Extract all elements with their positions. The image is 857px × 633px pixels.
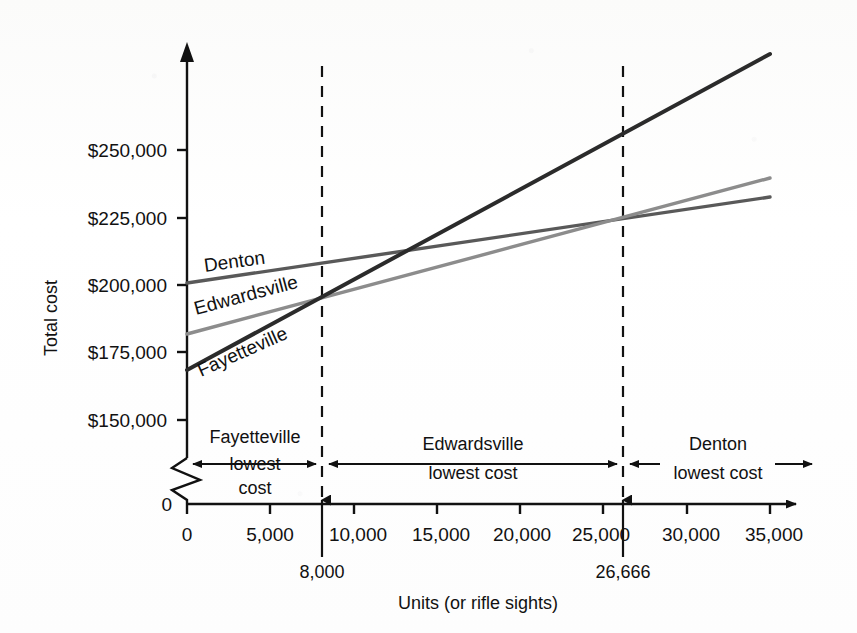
callout-label-8000: 8,000: [299, 562, 344, 582]
series-label-fayetteville: Fayetteville: [194, 322, 290, 380]
y-tick-label-200000: $200,000: [88, 275, 167, 296]
series-line-fayetteville: [187, 54, 770, 370]
series-line-edwardsville: [187, 178, 770, 334]
y-tick-label-175000: $175,000: [88, 342, 167, 363]
region-label-denton-line1: Denton: [689, 434, 747, 454]
region-label-fayetteville-line3: cost: [238, 478, 271, 498]
y-axis-ticks: [177, 150, 187, 420]
x-axis-title: Units (or rifle sights): [398, 593, 558, 613]
x-tick-label-5000: 5,000: [246, 524, 294, 545]
x-axis-ticks: [187, 504, 770, 514]
x-tick-label-0: 0: [182, 524, 193, 545]
region-label-edwardsville-line2: lowest cost: [428, 463, 517, 483]
y-axis-title: Total cost: [41, 280, 61, 356]
cost-volume-chart: Denton Edwardsville Fayetteville $150,00…: [0, 0, 857, 633]
region-label-fayetteville-line2: lowest: [229, 454, 280, 474]
region-label-denton-line2: lowest cost: [673, 463, 762, 483]
x-tick-label-35000: 35,000: [745, 524, 803, 545]
chart-canvas: Denton Edwardsville Fayetteville $150,00…: [0, 0, 857, 633]
region-bracket-denton: Denton lowest cost: [630, 434, 812, 483]
y-tick-label-225000: $225,000: [88, 208, 167, 229]
y-origin-label: 0: [161, 494, 172, 515]
x-tick-label-25000: 25,000: [572, 524, 630, 545]
x-tick-label-20000: 20,000: [493, 524, 551, 545]
region-label-fayetteville-line1: Fayetteville: [209, 427, 300, 447]
y-axis: [172, 42, 200, 504]
region-label-edwardsville-line1: Edwardsville: [422, 434, 523, 454]
x-tick-label-30000: 30,000: [662, 524, 720, 545]
region-bracket-fayetteville: Fayetteville lowest cost: [193, 427, 316, 498]
series-label-edwardsville: Edwardsville: [192, 271, 300, 319]
x-tick-label-10000: 10,000: [329, 524, 387, 545]
y-axis-arrowhead: [180, 42, 194, 62]
callout-label-26666: 26,666: [595, 562, 650, 582]
region-bracket-edwardsville: Edwardsville lowest cost: [329, 434, 617, 483]
y-tick-label-150000: $150,000: [88, 410, 167, 431]
y-tick-label-250000: $250,000: [88, 140, 167, 161]
x-tick-label-15000: 15,000: [412, 524, 470, 545]
